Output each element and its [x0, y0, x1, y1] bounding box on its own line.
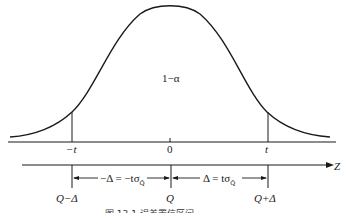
z-axis-label: Z: [334, 160, 341, 172]
right-arrowhead-icon: [261, 176, 267, 180]
q-plus-delta-label: Q+Δ: [254, 192, 276, 204]
zero-label: 0: [167, 143, 173, 155]
left-arrowhead-right-icon: [164, 176, 170, 180]
area-label: 1−α: [162, 72, 180, 84]
confidence-interval-diagram: 1−α −t 0 t Z −Δ = −tσQ̂ Δ = tσQ̂ Q−Δ Q Q…: [0, 0, 341, 213]
minus-t-label: −t: [66, 143, 77, 155]
q-label: Q: [166, 192, 174, 204]
plus-t-label: t: [265, 143, 269, 155]
q-minus-delta-label: Q−Δ: [56, 192, 78, 204]
figure-caption: 图 13.1 误差置信区间: [105, 208, 194, 213]
right-dimension-label: Δ = tσQ̂: [203, 172, 235, 187]
right-arrowhead-left-icon: [172, 176, 178, 180]
left-arrowhead-icon: [73, 176, 79, 180]
z-axis-arrow-icon: [326, 162, 334, 168]
left-dimension-label: −Δ = −tσQ̂: [100, 172, 145, 187]
